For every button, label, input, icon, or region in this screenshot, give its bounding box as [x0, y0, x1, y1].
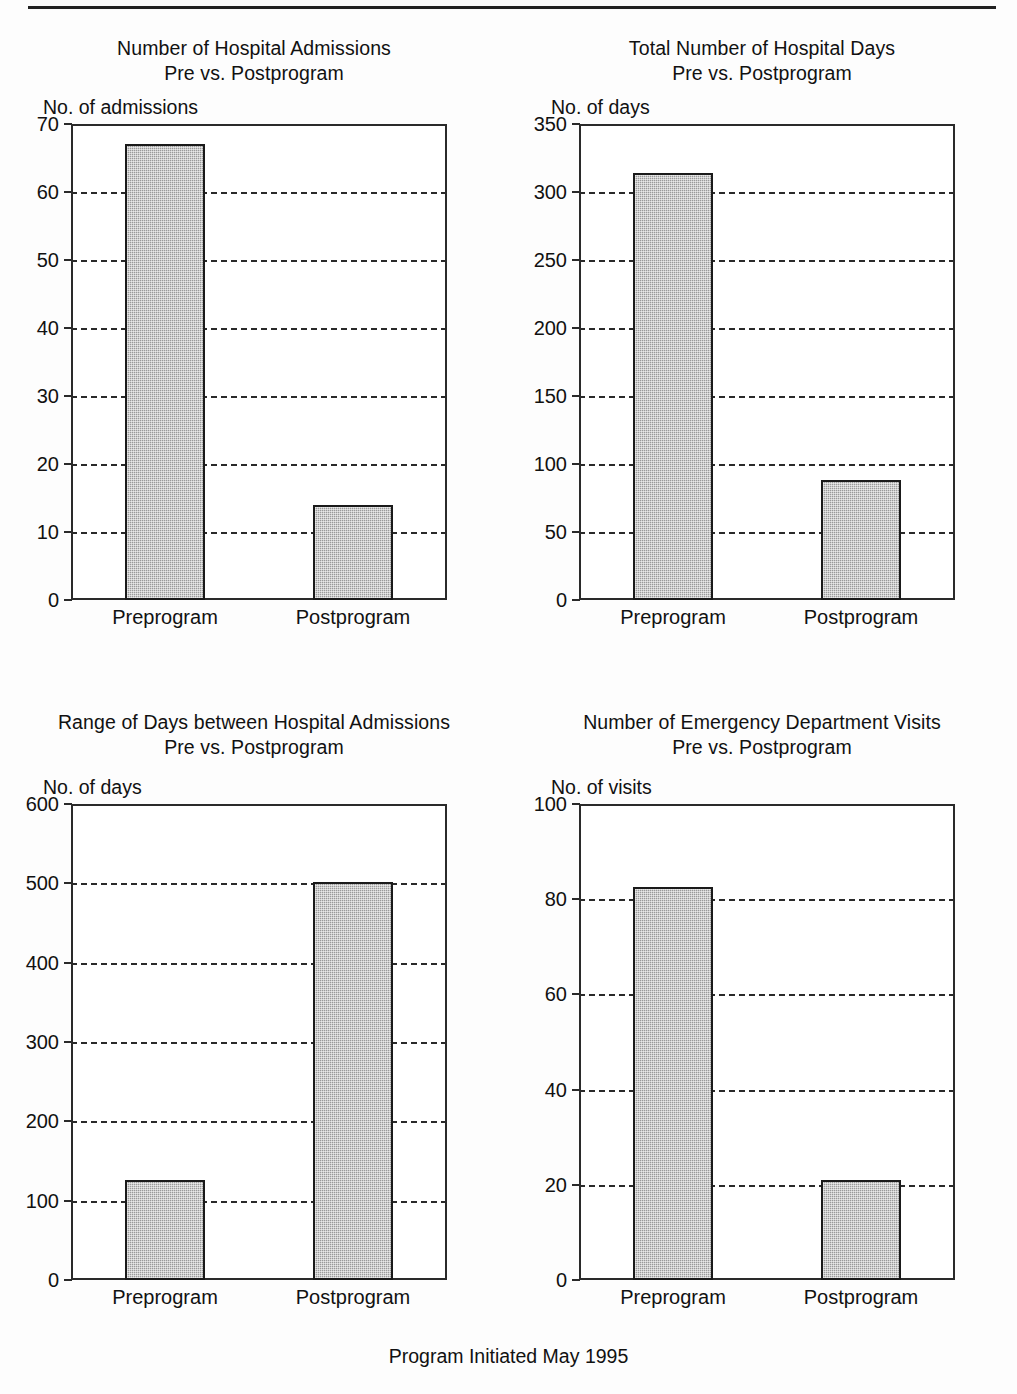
- chart-panel-0: Number of Hospital AdmissionsPre vs. Pos…: [0, 14, 508, 704]
- bar-1-0: [633, 173, 713, 600]
- y-tick-mark-2-0: [64, 1279, 72, 1281]
- y-tick-mark-0-5: [64, 259, 72, 261]
- bar-1-1: [821, 480, 901, 600]
- y-tick-label-3-5: 100: [509, 793, 567, 816]
- chart-title-2: Range of Days between Hospital Admission…: [0, 710, 508, 735]
- y-tick-mark-3-1: [572, 1184, 580, 1186]
- y-tick-label-3-1: 20: [509, 1173, 567, 1196]
- y-tick-label-2-4: 400: [1, 951, 59, 974]
- x-tick-label-1-1: Postprogram: [804, 606, 919, 629]
- y-tick-label-2-6: 600: [1, 793, 59, 816]
- y-tick-label-1-7: 350: [509, 113, 567, 136]
- y-tick-mark-0-2: [64, 463, 72, 465]
- chart-title-block-2: Range of Days between Hospital Admission…: [0, 704, 508, 760]
- chart-subtitle-3: Pre vs. Postprogram: [508, 735, 1016, 760]
- y-tick-mark-1-7: [572, 123, 580, 125]
- y-tick-mark-2-5: [64, 882, 72, 884]
- y-tick-mark-3-3: [572, 993, 580, 995]
- chart-row-bottom: Range of Days between Hospital Admission…: [0, 704, 1017, 1394]
- y-tick-mark-2-2: [64, 1120, 72, 1122]
- y-tick-label-3-2: 40: [509, 1078, 567, 1101]
- chart-panel-2: Range of Days between Hospital Admission…: [0, 704, 508, 1394]
- y-tick-label-1-4: 200: [509, 317, 567, 340]
- x-tick-label-0-0: Preprogram: [112, 606, 218, 629]
- chart-panel-1: Total Number of Hospital DaysPre vs. Pos…: [508, 14, 1016, 704]
- y-tick-mark-1-6: [572, 191, 580, 193]
- y-tick-label-0-6: 60: [1, 181, 59, 204]
- y-tick-mark-1-1: [572, 531, 580, 533]
- y-tick-mark-0-6: [64, 191, 72, 193]
- y-tick-label-1-0: 0: [509, 589, 567, 612]
- y-tick-label-1-3: 150: [509, 385, 567, 408]
- y-tick-label-1-2: 100: [509, 453, 567, 476]
- chart-row-top: Number of Hospital AdmissionsPre vs. Pos…: [0, 14, 1017, 704]
- x-tick-label-1-0: Preprogram: [620, 606, 726, 629]
- chart-subtitle-1: Pre vs. Postprogram: [508, 61, 1016, 86]
- y-tick-label-1-6: 300: [509, 181, 567, 204]
- y-tick-label-0-1: 10: [1, 521, 59, 544]
- chart-title-3: Number of Emergency Department Visits: [508, 710, 1016, 735]
- y-tick-label-0-7: 70: [1, 113, 59, 136]
- y-tick-mark-3-4: [572, 898, 580, 900]
- bar-2-0: [125, 1180, 205, 1280]
- y-tick-mark-0-1: [64, 531, 72, 533]
- y-tick-label-1-5: 250: [509, 249, 567, 272]
- bar-0-1: [313, 505, 393, 600]
- chart-title-block-0: Number of Hospital AdmissionsPre vs. Pos…: [0, 14, 508, 86]
- chart-subtitle-0: Pre vs. Postprogram: [0, 61, 508, 86]
- y-tick-label-2-1: 100: [1, 1189, 59, 1212]
- x-tick-label-3-0: Preprogram: [620, 1286, 726, 1309]
- y-tick-mark-1-5: [572, 259, 580, 261]
- y-tick-mark-2-3: [64, 1041, 72, 1043]
- y-tick-mark-0-7: [64, 123, 72, 125]
- y-tick-mark-3-2: [572, 1089, 580, 1091]
- y-axis-label-0: No. of admissions: [43, 96, 198, 119]
- chart-title-block-1: Total Number of Hospital DaysPre vs. Pos…: [508, 14, 1016, 86]
- header-rule: [28, 6, 996, 9]
- y-tick-mark-2-4: [64, 962, 72, 964]
- y-tick-mark-0-0: [64, 599, 72, 601]
- chart-grid: Number of Hospital AdmissionsPre vs. Pos…: [0, 14, 1017, 1394]
- y-tick-label-3-3: 60: [509, 983, 567, 1006]
- y-tick-mark-0-3: [64, 395, 72, 397]
- y-tick-mark-1-0: [572, 599, 580, 601]
- y-tick-label-3-0: 0: [509, 1269, 567, 1292]
- y-tick-mark-3-5: [572, 803, 580, 805]
- bar-3-0: [633, 887, 713, 1280]
- y-tick-label-1-1: 50: [509, 521, 567, 544]
- chart-subtitle-2: Pre vs. Postprogram: [0, 735, 508, 760]
- y-tick-mark-1-4: [572, 327, 580, 329]
- y-tick-label-0-2: 20: [1, 453, 59, 476]
- x-tick-label-2-0: Preprogram: [112, 1286, 218, 1309]
- bar-2-1: [313, 882, 393, 1280]
- y-tick-mark-1-3: [572, 395, 580, 397]
- y-tick-label-2-5: 500: [1, 872, 59, 895]
- chart-title-block-3: Number of Emergency Department VisitsPre…: [508, 704, 1016, 760]
- y-tick-label-2-2: 200: [1, 1110, 59, 1133]
- figure-caption: Program Initiated May 1995: [0, 1345, 1017, 1368]
- bar-0-0: [125, 144, 205, 600]
- y-tick-label-2-0: 0: [1, 1269, 59, 1292]
- y-tick-label-0-4: 40: [1, 317, 59, 340]
- chart-panel-3: Number of Emergency Department VisitsPre…: [508, 704, 1016, 1394]
- x-tick-label-3-1: Postprogram: [804, 1286, 919, 1309]
- x-tick-label-0-1: Postprogram: [296, 606, 411, 629]
- y-tick-mark-3-0: [572, 1279, 580, 1281]
- chart-title-1: Total Number of Hospital Days: [508, 36, 1016, 61]
- y-tick-mark-2-1: [64, 1200, 72, 1202]
- bar-3-1: [821, 1180, 901, 1280]
- chart-title-0: Number of Hospital Admissions: [0, 36, 508, 61]
- y-tick-label-0-3: 30: [1, 385, 59, 408]
- y-tick-label-3-4: 80: [509, 888, 567, 911]
- x-tick-label-2-1: Postprogram: [296, 1286, 411, 1309]
- y-tick-label-0-5: 50: [1, 249, 59, 272]
- y-tick-label-2-3: 300: [1, 1031, 59, 1054]
- y-tick-mark-0-4: [64, 327, 72, 329]
- y-tick-label-0-0: 0: [1, 589, 59, 612]
- y-tick-mark-1-2: [572, 463, 580, 465]
- y-tick-mark-2-6: [64, 803, 72, 805]
